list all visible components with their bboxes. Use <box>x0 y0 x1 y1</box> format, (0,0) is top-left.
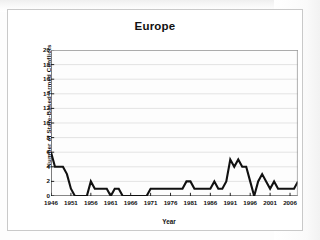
x-axis-label: Year <box>40 218 298 225</box>
x-tick-label: 2006 <box>278 199 302 206</box>
y-tick-label: 14 <box>33 91 50 97</box>
chart-plot-area: Number of State-Based Armed Conflicts 20… <box>0 0 320 240</box>
y-tick-label: 18 <box>33 62 50 68</box>
x-axis-tick-labels: 1946195119561961196619711976198119861991… <box>0 199 320 209</box>
y-tick-label: 20 <box>33 47 50 53</box>
y-axis-tick-labels: 20181614121086420 <box>33 50 50 196</box>
y-tick-label: 12 <box>33 105 50 111</box>
y-tick-label: 6 <box>33 149 50 155</box>
y-tick-label: 10 <box>33 120 50 126</box>
slide-canvas: Europe Number of State-Based Armed Confl… <box>0 0 320 240</box>
y-tick-label: 2 <box>33 178 50 184</box>
y-tick-label: 16 <box>33 76 50 82</box>
y-tick-label: 8 <box>33 135 50 141</box>
chart-svg <box>51 50 298 196</box>
y-tick-label: 4 <box>33 164 50 170</box>
